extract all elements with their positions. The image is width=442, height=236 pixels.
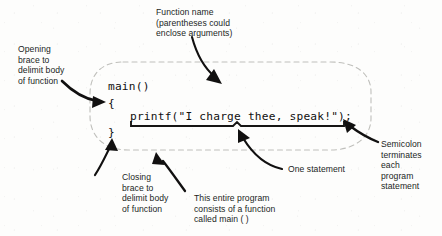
annotation-closing-brace: Closing brace to delimit body of functio… — [122, 172, 168, 214]
arrowhead-entire-program — [152, 152, 165, 165]
program-outline-dashed — [90, 62, 371, 150]
arrowhead-closing-brace — [105, 138, 118, 151]
arrow-opening-brace — [62, 81, 97, 101]
annotation-entire-program: This entire program consists of a functi… — [194, 193, 275, 225]
arrow-semicolon — [350, 126, 378, 142]
arrow-function-name — [192, 37, 215, 77]
annotation-function-name: Function name (parentheses could enclose… — [156, 7, 232, 39]
code-line-opening-brace: { — [108, 97, 115, 110]
code-line-function-header: main() — [108, 80, 150, 93]
code-line-closing-brace: } — [108, 126, 115, 139]
diagram-canvas: main() { printf("I charge thee, speak!")… — [0, 0, 442, 236]
arrowhead-opening-brace — [92, 96, 106, 108]
annotation-semicolon: Semicolon terminates each program statem… — [381, 139, 422, 192]
code-line-printf-statement: printf("I charge thee, speak!"); — [130, 110, 352, 123]
arrow-one-statement — [243, 138, 282, 169]
arrow-closing-brace — [95, 147, 110, 175]
annotation-opening-brace: Opening brace to delimit body of functio… — [18, 44, 64, 86]
annotation-one-statement: One statement — [288, 164, 345, 175]
